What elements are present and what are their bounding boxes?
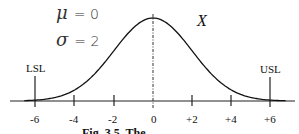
tick-label: -4 [69, 114, 78, 125]
mu-value: = 0 [74, 6, 99, 22]
sigma-parameter: σ= 2 [56, 32, 99, 49]
mu-parameter: μ= 0 [56, 5, 99, 22]
tick-label: +4 [225, 114, 237, 125]
tick-label: +2 [186, 114, 198, 125]
tick-label: 0 [151, 114, 157, 125]
variable-label: X [197, 12, 207, 30]
tick-label: +6 [264, 114, 276, 125]
normal-distribution-figure: μ= 0 σ= 2 X LSL USL -6 -4 -2 0 +2 +4 +6 … [0, 0, 299, 134]
tick-label: -2 [108, 114, 117, 125]
figure-caption: Fig. 3.5. The ... [82, 126, 157, 134]
sigma-symbol: σ [56, 29, 68, 50]
usl-label: USL [260, 64, 281, 75]
mu-symbol: μ [56, 2, 68, 23]
sigma-value: = 2 [74, 33, 99, 49]
tick-label: -6 [30, 114, 39, 125]
lsl-label: LSL [26, 63, 46, 74]
